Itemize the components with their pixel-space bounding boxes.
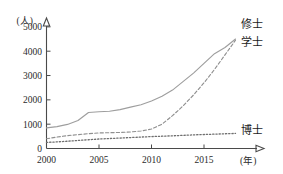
x-axis-arrowhead xyxy=(256,145,264,151)
x-axis-tick-labels: 2000200520102015 xyxy=(37,155,214,165)
series-label-dashed: 学士 xyxy=(241,35,263,48)
y-tick-label: 0 xyxy=(37,144,42,154)
y-tick-label: 2000 xyxy=(23,95,42,105)
x-tick-label: 2005 xyxy=(90,155,109,165)
x-tick-label: 2010 xyxy=(142,155,161,165)
x-tick-label: 2000 xyxy=(37,155,56,165)
line-chart: 010002000300040005000 2000200520102015 (… xyxy=(0,0,283,174)
series-label-dotted: 博士 xyxy=(241,124,263,136)
series-line-dashed xyxy=(47,40,236,139)
chart-container: 010002000300040005000 2000200520102015 (… xyxy=(0,0,283,174)
series-label-solid: 修士 xyxy=(241,17,263,30)
series-end-labels: 修士学士博士 xyxy=(241,17,263,136)
y-tick-label: 1000 xyxy=(23,120,42,130)
y-axis-ticks xyxy=(47,27,51,124)
y-tick-label: 4000 xyxy=(23,47,42,57)
y-tick-label: 3000 xyxy=(23,71,42,81)
y-axis-tick-labels: 010002000300040005000 xyxy=(23,22,42,154)
y-axis-unit-label: (人) xyxy=(17,16,33,27)
x-axis-unit-label: (年) xyxy=(240,155,256,167)
series-line-solid xyxy=(47,39,236,128)
series-lines xyxy=(47,39,236,142)
x-axis-ticks xyxy=(99,145,204,149)
x-tick-label: 2015 xyxy=(195,155,214,165)
y-axis-arrowhead xyxy=(43,18,49,26)
